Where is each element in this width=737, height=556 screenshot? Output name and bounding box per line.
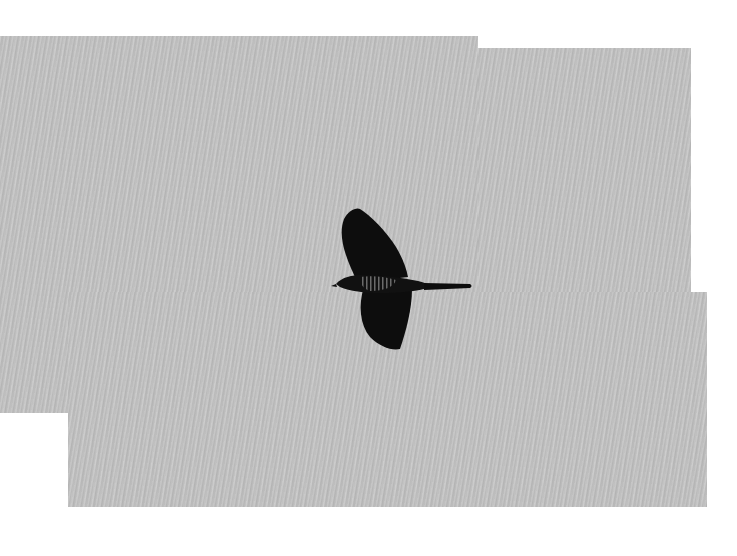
beak (331, 284, 337, 287)
tail (424, 283, 472, 290)
lower-wing (361, 287, 412, 350)
sky-panel (478, 48, 691, 293)
upper-wing (342, 208, 408, 283)
bird-silhouette (330, 205, 475, 355)
